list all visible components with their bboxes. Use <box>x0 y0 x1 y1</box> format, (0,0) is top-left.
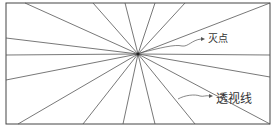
perspective-ray <box>138 54 270 55</box>
perspective-drawing <box>0 0 272 131</box>
vanishing-point-label: 灭点 <box>208 34 228 44</box>
perspective-diagram: 灭点 透视线 <box>0 0 272 131</box>
perspective-ray <box>138 54 270 77</box>
perspective-ray <box>138 3 155 54</box>
perspective-ray <box>83 54 138 124</box>
perspective-ray <box>6 38 138 54</box>
perspective-ray <box>138 3 270 54</box>
perspective-lines-leader-line <box>178 95 210 99</box>
perspective-ray <box>6 54 138 55</box>
perspective-ray <box>138 54 270 124</box>
vanishing-point <box>136 52 139 55</box>
perspective-lines-label: 透视线 <box>216 93 252 105</box>
perspective-ray <box>6 54 138 80</box>
vanishing-point-arrow-icon <box>201 37 205 41</box>
perspective-ray <box>18 54 138 124</box>
perspective-ray <box>123 54 138 124</box>
perspective-lines-arrow-icon <box>209 94 213 98</box>
perspective-ray <box>138 3 185 54</box>
perspective-ray <box>25 3 138 54</box>
